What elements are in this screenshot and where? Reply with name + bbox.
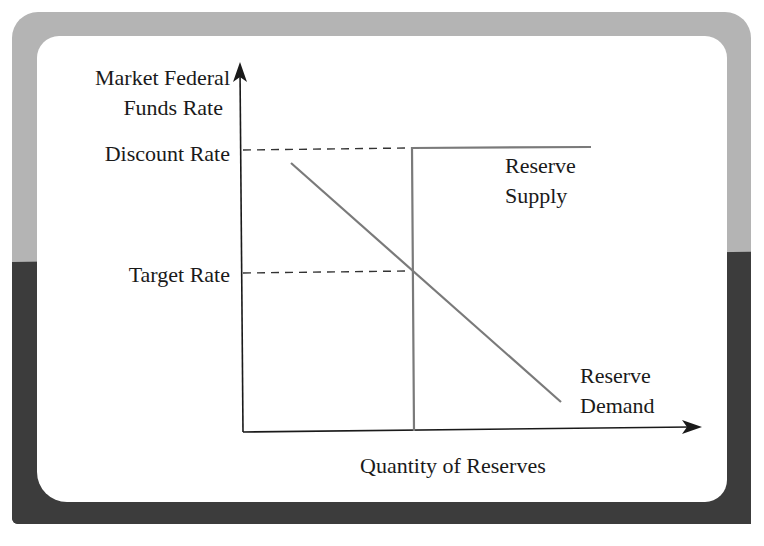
reserve-demand-label-line2: Demand [580, 393, 655, 419]
target-rate-label: Target Rate [30, 262, 230, 288]
y-axis-label-line2: Funds Rate [40, 95, 223, 121]
reserve-demand-label-line1: Reserve [580, 363, 651, 389]
discount-rate-dashed-line [243, 148, 410, 150]
target-rate-dashed-line [243, 271, 410, 273]
y-axis [240, 70, 243, 432]
reserve-supply-label-line1: Reserve [505, 153, 576, 179]
x-axis-label: Quantity of Reserves [360, 453, 546, 479]
y-axis-label-line1: Market Federal [40, 65, 230, 91]
discount-rate-label: Discount Rate [30, 141, 230, 167]
x-axis [243, 427, 690, 432]
reserve-supply-label-line2: Supply [505, 183, 567, 209]
